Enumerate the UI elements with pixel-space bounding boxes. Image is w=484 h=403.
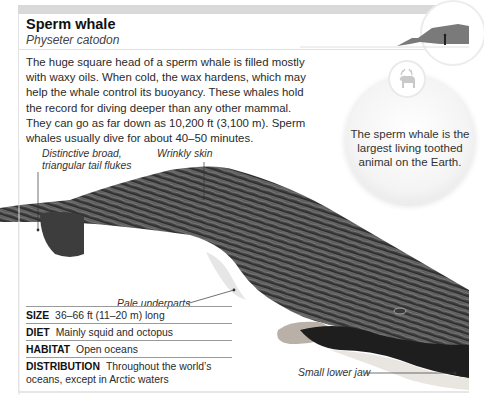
fact-row-diet: DIETMainly squid and octopus (26, 324, 232, 341)
intro-paragraph: The huge square head of a sperm whale is… (26, 55, 306, 146)
facts-table: SIZE36–66 ft (11–20 m) long DIETMainly s… (26, 306, 232, 387)
whale-vs-human-scale-icon (0, 0, 469, 60)
fact-icon-circle (390, 62, 424, 96)
fact-value: 36–66 ft (11–20 m) long (55, 310, 165, 321)
label-small-lower-jaw: Small lower jaw (298, 367, 370, 379)
fact-key: DISTRIBUTION (26, 361, 100, 372)
fact-value: Mainly squid and octopus (56, 327, 173, 338)
fact-row-size: SIZE36–66 ft (11–20 m) long (26, 306, 232, 324)
fact-row-habitat: HABITATOpen oceans (26, 341, 232, 358)
label-wrinkly-skin: Wrinkly skin (157, 148, 212, 160)
label-tail-flukes: Distinctive broad, triangular tail fluke… (42, 148, 152, 172)
fact-key: DIET (26, 327, 50, 338)
fact-value: Open oceans (76, 344, 138, 355)
reindeer-icon (390, 62, 424, 96)
fact-row-distribution: DISTRIBUTIONThroughout the world’s ocean… (26, 358, 232, 387)
fact-key: HABITAT (26, 344, 70, 355)
fact-key: SIZE (26, 310, 49, 321)
